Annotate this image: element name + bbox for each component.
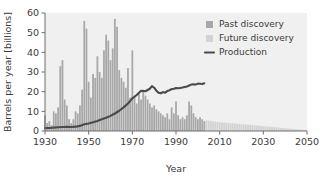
past-discovery-bar xyxy=(134,96,136,131)
future-discovery-bar xyxy=(223,123,225,131)
future-discovery-bar xyxy=(243,124,245,131)
future-discovery-bar xyxy=(208,121,210,131)
legend-label: Production xyxy=(219,47,267,57)
past-discovery-bar xyxy=(136,103,138,131)
future-discovery-bar xyxy=(234,124,236,131)
past-discovery-bar xyxy=(59,66,61,131)
past-discovery-bar xyxy=(79,105,81,131)
chart-svg: 0102030405060 19301950197019902010203020… xyxy=(0,0,326,177)
legend-label: Future discovery xyxy=(219,33,294,43)
past-discovery-bar xyxy=(197,119,199,131)
past-discovery-bar xyxy=(155,109,157,131)
x-tick-label: 2030 xyxy=(251,136,275,147)
past-discovery-bar xyxy=(62,60,64,131)
future-discovery-bar xyxy=(221,122,223,131)
past-discovery-bar xyxy=(173,113,175,131)
past-discovery-bar xyxy=(118,70,120,131)
past-discovery-bar xyxy=(140,100,142,131)
oil-discovery-production-chart: 0102030405060 19301950197019902010203020… xyxy=(0,0,326,177)
past-discovery-bar xyxy=(94,78,96,131)
past-discovery-bar xyxy=(199,117,201,131)
past-discovery-bar xyxy=(166,113,168,131)
future-discovery-bar xyxy=(236,124,238,131)
x-tick-label: 1950 xyxy=(77,136,101,147)
future-discovery-bar xyxy=(230,123,232,131)
past-discovery-bar xyxy=(195,117,197,131)
past-discovery-bar xyxy=(112,48,114,131)
past-discovery-bar xyxy=(99,72,101,131)
legend-label: Past discovery xyxy=(219,19,285,29)
future-discovery-bar xyxy=(228,123,230,131)
future-discovery-bar xyxy=(247,125,249,131)
x-axis-title: Year xyxy=(165,163,186,174)
y-tick-label: 60 xyxy=(27,7,39,18)
past-discovery-bar xyxy=(182,117,184,131)
past-discovery-bar xyxy=(160,113,162,131)
future-discovery-bar xyxy=(271,127,273,131)
past-discovery-bar xyxy=(48,121,50,131)
past-discovery-bar xyxy=(164,117,166,131)
future-discovery-bar xyxy=(238,124,240,131)
past-discovery-bar xyxy=(153,105,155,131)
past-discovery-bar xyxy=(179,119,181,131)
past-discovery-bar xyxy=(147,100,149,131)
future-discovery-bar xyxy=(254,125,256,131)
x-tick-label: 1930 xyxy=(33,136,57,147)
past-discovery-bar xyxy=(68,119,70,131)
past-discovery-bar xyxy=(110,60,112,131)
x-tick-label: 2010 xyxy=(208,136,232,147)
legend-swatch xyxy=(206,35,213,42)
future-discovery-bar xyxy=(260,126,262,131)
past-discovery-bar xyxy=(193,113,195,131)
past-discovery-bar xyxy=(86,29,88,131)
future-discovery-bar xyxy=(252,125,254,131)
y-tick-label: 20 xyxy=(27,86,39,97)
future-discovery-bar xyxy=(267,126,269,131)
future-discovery-bar xyxy=(241,124,243,131)
y-tick-label: 50 xyxy=(27,27,39,38)
y-tick-label: 10 xyxy=(27,106,39,117)
legend-swatch xyxy=(206,21,213,28)
past-discovery-bar xyxy=(201,119,203,131)
future-discovery-bar xyxy=(249,125,251,131)
past-discovery-bar xyxy=(203,121,205,131)
past-discovery-bar xyxy=(90,98,92,131)
past-discovery-bar xyxy=(171,107,173,131)
future-discovery-bar xyxy=(225,123,227,131)
future-discovery-bar xyxy=(276,127,278,131)
past-discovery-bar xyxy=(162,115,164,131)
future-discovery-bar xyxy=(212,121,214,131)
future-discovery-bar xyxy=(262,126,264,131)
past-discovery-bar xyxy=(175,102,177,132)
past-discovery-bar xyxy=(142,90,144,131)
past-discovery-bar xyxy=(158,111,160,131)
past-discovery-bar xyxy=(72,119,74,131)
future-discovery-bar xyxy=(232,123,234,131)
past-discovery-bar xyxy=(127,68,129,131)
past-discovery-bar xyxy=(188,102,190,132)
future-discovery-bar xyxy=(217,122,219,131)
past-discovery-bar xyxy=(151,107,153,131)
y-tick-label: 0 xyxy=(33,125,39,136)
y-axis-title: Barrels per year [billions] xyxy=(2,12,13,132)
y-tick-label: 30 xyxy=(27,66,39,77)
past-discovery-bar xyxy=(125,88,127,131)
past-discovery-bar xyxy=(121,78,123,131)
past-discovery-bar xyxy=(169,119,171,131)
future-discovery-bar xyxy=(273,127,275,131)
past-discovery-bar xyxy=(75,111,77,131)
future-discovery-bar xyxy=(245,125,247,131)
future-discovery-bar xyxy=(206,120,208,131)
x-tick-label: 1970 xyxy=(120,136,144,147)
future-discovery-bar xyxy=(258,126,260,131)
y-tick-label: 40 xyxy=(27,47,39,58)
past-discovery-bar xyxy=(149,103,151,131)
x-tick-label: 1990 xyxy=(164,136,188,147)
past-discovery-bar xyxy=(138,94,140,131)
future-discovery-bar xyxy=(265,126,267,131)
past-discovery-bar xyxy=(177,115,179,131)
past-discovery-bar xyxy=(131,50,133,131)
x-tick-label: 2050 xyxy=(295,136,319,147)
past-discovery-bar xyxy=(83,21,85,131)
past-discovery-bar xyxy=(186,115,188,131)
